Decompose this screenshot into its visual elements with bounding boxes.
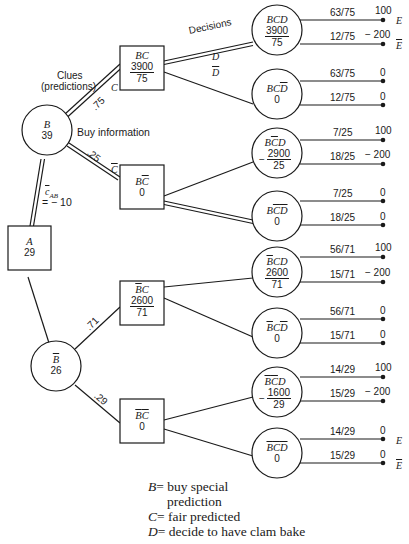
outcome-prob: 15/71 (330, 330, 355, 341)
node-bbar: B 26 (31, 354, 81, 376)
branch-cbar-label: C (111, 164, 118, 175)
outcome-payoff: 100 (375, 242, 392, 253)
node-a: A 29 (8, 236, 51, 258)
outcome-prob: 56/71 (330, 306, 355, 317)
node-bbarcbar: BC 0 (120, 410, 164, 432)
outcome-end-e: E (396, 15, 402, 26)
outcome-payoff: − 200 (365, 386, 390, 397)
outcome-payoff: 0 (380, 449, 386, 460)
clues-label: Clues (57, 70, 83, 81)
legend-c: C= fair predicted (148, 509, 305, 524)
outcome-prob: 15/71 (330, 269, 355, 280)
outcome-payoff: − 200 (365, 29, 390, 40)
cost-value: = − 10 (42, 197, 72, 208)
outcome-payoff: 0 (380, 425, 386, 436)
node-bcdbar: BCD 0 (252, 83, 302, 105)
legend-b: B= buy special (148, 479, 305, 494)
node-bcbard: BCD −290025 (246, 137, 304, 171)
outcome-prob: 15/29 (330, 450, 355, 461)
outcome-prob: 18/25 (330, 151, 355, 162)
node-bbarc: BC 260071 (120, 284, 164, 318)
outcome-prob: 7/25 (333, 127, 352, 138)
outcome-payoff: 100 (375, 5, 392, 16)
predictions-label: (predictions) (41, 81, 96, 92)
node-bbarcd: BCD 260071 (252, 256, 302, 290)
outcome-prob: 14/29 (330, 364, 355, 375)
node-bc: BC 390075 (120, 50, 164, 84)
outcome-prob: 7/25 (333, 188, 352, 199)
outcome-prob: 15/29 (330, 388, 355, 399)
branch-c-label: C (111, 82, 118, 93)
outcome-prob: 63/75 (330, 7, 355, 18)
outcome-payoff: 0 (380, 329, 386, 340)
branch-dbar-label: D (212, 67, 219, 78)
outcome-prob: 18/25 (330, 212, 355, 223)
outcome-prob: 12/75 (330, 31, 355, 42)
legend: B= buy special prediction C= fair predic… (148, 479, 305, 539)
outcome-payoff: 0 (380, 187, 386, 198)
outcome-payoff: 0 (380, 211, 386, 222)
node-bbarcbardbar: BCD 0 (252, 442, 302, 464)
node-bcd: BCD 390075 (252, 14, 302, 48)
outcome-end-e: E (396, 435, 402, 446)
outcome-prob: 56/71 (330, 244, 355, 255)
node-bbarcbard: BCD −160029 (246, 376, 304, 410)
outcome-payoff: − 200 (365, 149, 390, 160)
outcome-end-ebar: E (396, 460, 402, 471)
legend-b-cont: prediction (148, 494, 305, 509)
outcome-prob: 14/29 (330, 426, 355, 437)
outcome-payoff: − 200 (365, 267, 390, 278)
outcome-payoff: 100 (375, 362, 392, 373)
outcome-payoff: 0 (380, 305, 386, 316)
node-bcbar: BC 0 (120, 176, 164, 198)
buy-information-label: Buy information (77, 127, 150, 138)
outcome-end-ebar: E (396, 40, 402, 51)
outcome-payoff: 0 (380, 67, 386, 78)
outcome-payoff: 0 (380, 91, 386, 102)
legend-d: D= decide to have clam bake (148, 524, 305, 539)
outcome-prob: 12/75 (330, 92, 355, 103)
outcome-prob: 63/75 (330, 68, 355, 79)
branch-d-label: D (212, 51, 219, 62)
node-bcbardbar: BCD 0 (252, 205, 302, 227)
node-b: B 39 (22, 119, 72, 141)
outcome-payoff: 100 (375, 125, 392, 136)
node-bbarcdbar: BCD 0 (252, 322, 302, 344)
